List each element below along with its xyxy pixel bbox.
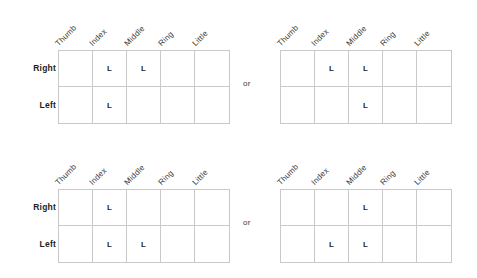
- column-header-ring: Ring: [379, 168, 398, 187]
- column-header-group: ThumbIndexMiddleRingLittle: [280, 0, 452, 50]
- or-connector-label: or: [243, 79, 251, 88]
- bottom-left-option: ThumbIndexMiddleRingLittleRightLeftLLL: [0, 139, 240, 278]
- cell-left-ring[interactable]: [383, 226, 417, 262]
- column-header-little: Little: [191, 168, 210, 187]
- cell-right-middle[interactable]: L: [349, 190, 383, 226]
- column-header-index: Index: [310, 166, 331, 187]
- row-label-group: RightLeft: [10, 50, 56, 124]
- column-header-little: Little: [413, 168, 432, 187]
- column-header-middle: Middle: [345, 24, 369, 48]
- cell-left-ring[interactable]: [383, 87, 417, 123]
- cell-right-thumb[interactable]: [59, 51, 93, 87]
- column-header-little: Little: [191, 29, 210, 48]
- cell-left-thumb[interactable]: [59, 226, 93, 262]
- cell-right-ring[interactable]: [383, 190, 417, 226]
- cell-left-index[interactable]: L: [93, 226, 127, 262]
- cell-right-little[interactable]: [417, 190, 451, 226]
- finger-grid: LLL: [280, 50, 452, 124]
- cell-left-middle[interactable]: L: [349, 226, 383, 262]
- column-header-ring: Ring: [379, 29, 398, 48]
- cell-left-thumb[interactable]: [281, 226, 315, 262]
- finger-grid: LLL: [58, 189, 230, 263]
- column-header-middle: Middle: [345, 163, 369, 187]
- column-header-group: ThumbIndexMiddleRingLittle: [280, 139, 452, 189]
- cell-left-index[interactable]: [315, 87, 349, 123]
- cell-right-index[interactable]: L: [93, 190, 127, 226]
- bottom-right-option: ThumbIndexMiddleRingLittleRightLeftLLL: [240, 139, 477, 278]
- cell-right-index[interactable]: L: [93, 51, 127, 87]
- cell-right-ring[interactable]: [383, 51, 417, 87]
- cell-left-thumb[interactable]: [59, 87, 93, 123]
- row-label-left: Left: [10, 87, 56, 124]
- cell-left-middle[interactable]: L: [349, 87, 383, 123]
- column-header-group: ThumbIndexMiddleRingLittle: [58, 139, 230, 189]
- column-header-thumb: Thumb: [276, 162, 301, 187]
- column-header-little: Little: [413, 29, 432, 48]
- column-header-thumb: Thumb: [54, 23, 79, 48]
- or-connector-label: or: [243, 218, 251, 227]
- cell-left-little[interactable]: [195, 87, 229, 123]
- cell-left-thumb[interactable]: [281, 87, 315, 123]
- row-label-left: Left: [10, 226, 56, 263]
- column-header-thumb: Thumb: [276, 23, 301, 48]
- row-label-right: Right: [10, 189, 56, 226]
- cell-right-index[interactable]: L: [315, 51, 349, 87]
- finger-grid: LLL: [280, 189, 452, 263]
- cell-right-thumb[interactable]: [59, 190, 93, 226]
- cell-left-middle[interactable]: L: [127, 226, 161, 262]
- cell-right-middle[interactable]: L: [127, 51, 161, 87]
- column-header-middle: Middle: [123, 163, 147, 187]
- top-right-option: ThumbIndexMiddleRingLittleRightLeftLLL: [240, 0, 477, 139]
- cell-right-thumb[interactable]: [281, 51, 315, 87]
- cell-right-middle[interactable]: [127, 190, 161, 226]
- cell-left-ring[interactable]: [161, 226, 195, 262]
- column-header-index: Index: [88, 27, 109, 48]
- cell-left-little[interactable]: [195, 226, 229, 262]
- column-header-index: Index: [88, 166, 109, 187]
- cell-left-middle[interactable]: [127, 87, 161, 123]
- column-header-ring: Ring: [157, 168, 176, 187]
- cell-left-index[interactable]: L: [93, 87, 127, 123]
- column-header-thumb: Thumb: [54, 162, 79, 187]
- cell-left-little[interactable]: [417, 226, 451, 262]
- cell-right-little[interactable]: [417, 51, 451, 87]
- top-left-option: ThumbIndexMiddleRingLittleRightLeftLLL: [0, 0, 240, 139]
- row-label-group: RightLeft: [10, 189, 56, 263]
- cell-left-little[interactable]: [417, 87, 451, 123]
- column-header-middle: Middle: [123, 24, 147, 48]
- cell-right-little[interactable]: [195, 190, 229, 226]
- bottom-block: ThumbIndexMiddleRingLittleRightLeftLLLTh…: [0, 139, 477, 278]
- cell-right-little[interactable]: [195, 51, 229, 87]
- cell-right-ring[interactable]: [161, 190, 195, 226]
- cell-right-middle[interactable]: L: [349, 51, 383, 87]
- column-header-ring: Ring: [157, 29, 176, 48]
- finger-grid: LLL: [58, 50, 230, 124]
- column-header-index: Index: [310, 27, 331, 48]
- cell-left-index[interactable]: L: [315, 226, 349, 262]
- column-header-group: ThumbIndexMiddleRingLittle: [58, 0, 230, 50]
- cell-right-index[interactable]: [315, 190, 349, 226]
- row-label-right: Right: [10, 50, 56, 87]
- cell-left-ring[interactable]: [161, 87, 195, 123]
- cell-right-thumb[interactable]: [281, 190, 315, 226]
- cell-right-ring[interactable]: [161, 51, 195, 87]
- top-block: ThumbIndexMiddleRingLittleRightLeftLLLTh…: [0, 0, 477, 139]
